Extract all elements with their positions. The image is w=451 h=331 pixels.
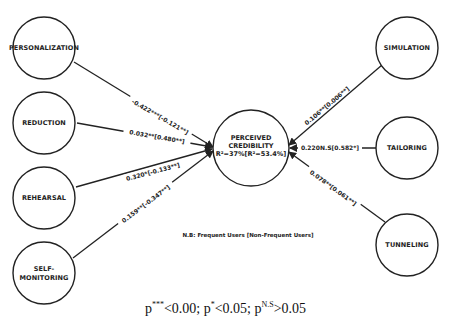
significance-legend: p***<0.00; p*<0.05; pN.S>0.05 — [0, 300, 451, 317]
path-diagram: -0.422***[-0.121**] 0.032**[0.480**] 0.3… — [0, 0, 451, 331]
edge-label-self-monitoring: 0.159**[-0.347**] — [120, 183, 171, 224]
edge-simulation — [289, 65, 382, 145]
node-label-line2: MONITORING — [19, 274, 68, 282]
edge-label-tunneling: 0.078**[0.061**] — [309, 168, 359, 207]
note-text: N.B: Frequent Users [Non-Frequent Users] — [182, 232, 314, 239]
legend-p: p — [145, 301, 152, 316]
node-label: TAILORING — [387, 144, 427, 152]
node-tailoring: TAILORING — [376, 117, 438, 179]
legend-text-3: >0.05 — [274, 301, 306, 316]
node-rehearsal: REHEARSAL — [13, 167, 75, 229]
node-personalization: PERSONALIZATION — [9, 17, 79, 79]
node-label: REHEARSAL — [22, 194, 66, 202]
r-squared-label: R²=37%[R²=53.4%] — [216, 150, 287, 158]
center-label-line2: CREDIBILITY — [228, 142, 273, 150]
center-label-line1: PERCEIVED — [231, 134, 272, 142]
edge-label-tailoring: 0.220N.S[0.582*] — [301, 144, 359, 151]
node-simulation: SIMULATION — [376, 17, 438, 79]
node-tunneling: TUNNELING — [376, 214, 438, 276]
node-label: SIMULATION — [384, 44, 430, 52]
legend-text-1: <0.00; p — [164, 301, 211, 316]
legend-text-2: <0.05; p — [215, 301, 262, 316]
legend-sup-3: N.S — [261, 300, 273, 309]
node-label: REDUCTION — [22, 119, 66, 127]
legend-sup-1: *** — [152, 300, 164, 309]
node-label-line1: SELF- — [34, 265, 55, 273]
node-self-monitoring: SELF- MONITORING — [13, 242, 75, 304]
node-reduction: REDUCTION — [13, 92, 75, 154]
edge-label-simulation: 0.106**[0.006**] — [303, 85, 351, 127]
node-label: TUNNELING — [385, 241, 428, 249]
node-label: PERSONALIZATION — [9, 44, 79, 52]
edge-label-reduction: 0.032**[0.480**] — [129, 128, 186, 145]
node-perceived-credibility: PERCEIVED CREDIBILITY R²=37%[R²=53.4%] — [213, 110, 289, 186]
